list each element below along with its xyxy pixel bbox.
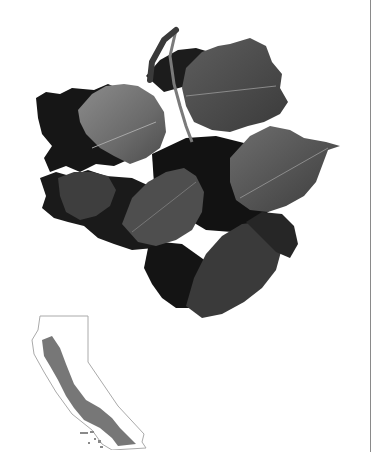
oak-leaves-photo (36, 26, 358, 322)
leaf-right (230, 126, 340, 212)
vertical-rule (370, 0, 371, 452)
cropped-header-text (32, 0, 212, 5)
california-outline (32, 316, 146, 450)
california-range-map (28, 310, 152, 450)
